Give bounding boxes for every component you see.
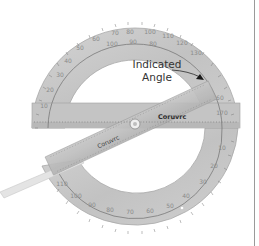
svg-text:40: 40 <box>64 57 72 64</box>
svg-text:170: 170 <box>216 109 228 116</box>
svg-text:100: 100 <box>106 40 118 47</box>
svg-text:110: 110 <box>162 32 174 39</box>
annotation-line-2: Angle <box>127 71 187 84</box>
svg-text:60: 60 <box>92 35 100 42</box>
svg-text:100: 100 <box>70 192 82 199</box>
svg-text:70: 70 <box>126 208 134 215</box>
svg-text:90: 90 <box>88 201 96 208</box>
svg-text:10: 10 <box>40 102 48 109</box>
svg-text:80: 80 <box>126 28 134 35</box>
right-edge-divider <box>254 0 255 246</box>
lower-protractor-ring <box>42 128 238 225</box>
svg-text:130: 130 <box>190 49 202 56</box>
svg-text:20: 20 <box>46 86 54 93</box>
svg-text:120: 120 <box>176 39 188 46</box>
svg-text:90: 90 <box>129 38 137 45</box>
svg-text:70: 70 <box>111 29 119 36</box>
svg-text:30: 30 <box>199 178 207 185</box>
svg-text:80: 80 <box>106 206 114 213</box>
protractor-photo: 80 100 70 110 60 120 50 130 40 30 20 10 … <box>0 0 259 246</box>
annotation-label: Indicated Angle <box>127 58 187 84</box>
svg-text:50: 50 <box>166 202 174 209</box>
svg-text:40: 40 <box>182 192 190 199</box>
annotation-line-1: Indicated <box>127 58 187 71</box>
svg-text:100: 100 <box>144 28 156 35</box>
svg-text:80: 80 <box>149 40 157 47</box>
protractor-illustration: 80 100 70 110 60 120 50 130 40 30 20 10 … <box>0 0 259 246</box>
svg-text:20: 20 <box>210 162 218 169</box>
svg-text:30: 30 <box>56 71 64 78</box>
svg-text:110: 110 <box>56 180 68 187</box>
base-brand-text: Coruvrc <box>158 113 187 121</box>
svg-text:10: 10 <box>218 144 226 151</box>
svg-text:50: 50 <box>76 44 84 51</box>
svg-text:60: 60 <box>146 207 154 214</box>
